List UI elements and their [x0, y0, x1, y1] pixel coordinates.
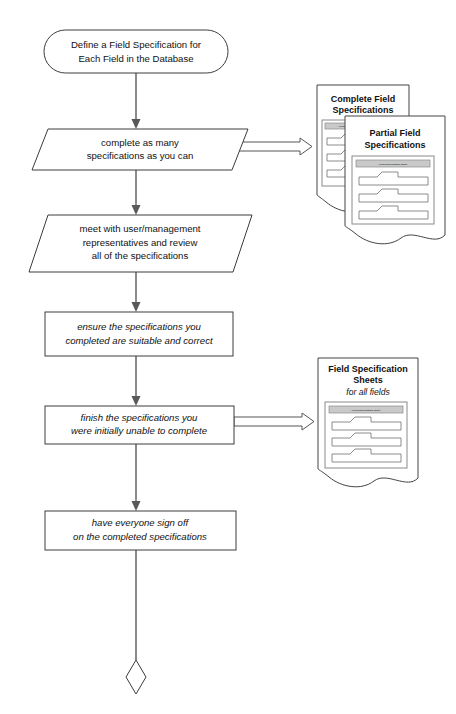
document-sheets-subtitle: for all fields: [346, 387, 390, 397]
node-step3-line1: ensure the specifications you: [77, 321, 201, 332]
node-step2-line2: representatives and review: [83, 237, 198, 248]
node-step3-line2: completed are suitable and correct: [65, 335, 213, 346]
node-step1-line2: specifications as you can: [87, 150, 194, 161]
connector-step1-to-step2: [132, 170, 141, 215]
node-start-line1: Define a Field Specification for: [71, 39, 202, 50]
document-sheets-title-line2: Sheets: [353, 375, 383, 385]
node-step4[interactable]: finish the specifications you were initi…: [45, 406, 234, 444]
connector-start-to-step1: [132, 73, 141, 129]
document-sheets-title-line1: Field Specification: [328, 364, 408, 374]
node-step5-line2: on the completed specifications: [73, 531, 207, 542]
node-step1-line1: complete as many: [101, 137, 179, 148]
document-field-specification-sheets[interactable]: Field Specification Sheets for all field…: [318, 358, 418, 487]
node-step5-line1: have everyone sign off: [92, 517, 190, 528]
document-partial-title-line2: Specifications: [364, 140, 425, 150]
node-step3[interactable]: ensure the specifications you completed …: [45, 312, 233, 356]
document-sheets-inner-sheet: Field Specification Sheet: [325, 402, 407, 468]
connector-step4-to-documents: [234, 413, 314, 430]
document-complete-title-line2: Specifications: [332, 105, 393, 115]
document-partial-micro-header: Field Specification Sheet: [379, 163, 407, 166]
node-step2-line1: meet with user/management: [79, 223, 200, 234]
node-end[interactable]: [126, 660, 146, 694]
node-start-line2: Each Field in the Database: [78, 53, 193, 64]
document-partial-title-line1: Partial Field: [369, 128, 420, 138]
node-step4-line2: were initially unable to complete: [71, 425, 207, 436]
document-partial-inner-sheet: Field Specification Sheet: [352, 156, 434, 224]
document-sheets-micro-header: Field Specification Sheet: [352, 409, 380, 412]
document-complete-title-line1: Complete Field: [331, 94, 396, 104]
flowchart-svg: Define a Field Specification for Each Fi…: [0, 0, 456, 714]
connector-step2-to-step3: [132, 272, 141, 312]
node-step2[interactable]: meet with user/management representative…: [29, 215, 252, 272]
node-step1[interactable]: complete as many specifications as you c…: [32, 129, 248, 170]
node-step4-line1: finish the specifications you: [81, 412, 198, 423]
node-step5[interactable]: have everyone sign off on the completed …: [45, 511, 236, 550]
document-partial-field-specifications[interactable]: Partial Field Specifications Field Speci…: [345, 116, 445, 244]
node-start[interactable]: Define a Field Specification for Each Fi…: [44, 30, 228, 73]
flowchart-canvas: Define a Field Specification for Each Fi…: [0, 0, 456, 714]
connector-step3-to-step4: [132, 356, 141, 406]
connector-step4-to-step5: [132, 444, 141, 511]
node-step2-line3: all of the specifications: [92, 250, 189, 261]
